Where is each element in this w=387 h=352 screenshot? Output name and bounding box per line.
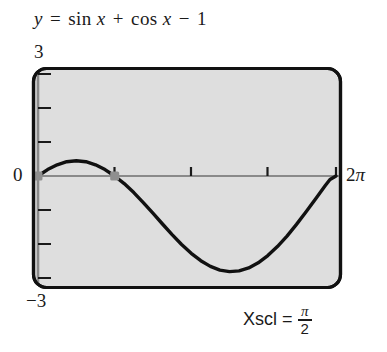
- xscl-numerator: π: [298, 304, 312, 319]
- x-axis-max-label: 2π: [346, 164, 365, 186]
- xscl-annotation: Xscl = π 2: [243, 304, 312, 336]
- equation-sin-argument: x: [97, 8, 106, 29]
- equation-cos-function: cos: [131, 8, 158, 29]
- equation-plus-operator: +: [111, 8, 126, 29]
- equation-lhs: y: [34, 8, 43, 29]
- equation-sin-function: sin: [68, 8, 91, 29]
- y-axis-max-label: 3: [34, 41, 44, 63]
- origin-label: 0: [13, 164, 23, 186]
- y-axis-min-label: −3: [26, 290, 46, 312]
- xscl-label: Xscl: [243, 309, 277, 330]
- pi-symbol-icon: π: [356, 164, 366, 185]
- x-axis-max-coefficient: 2: [346, 164, 356, 185]
- equation-title: y = sin x + cos x − 1: [34, 8, 207, 30]
- graphing-calculator-figure: y = sin x + cos x − 1 3 −3 0 2π: [0, 0, 387, 352]
- equation-cos-argument: x: [163, 8, 172, 29]
- xscl-equals: =: [282, 309, 293, 330]
- zero-crossing-marker: [110, 172, 119, 181]
- calculator-screen-plot: [31, 66, 343, 290]
- screen-background: [34, 69, 341, 288]
- equation-minus-operator: −: [177, 8, 192, 29]
- equation-constant: 1: [197, 8, 207, 29]
- xscl-denominator: 2: [298, 321, 312, 336]
- xscl-fraction: π 2: [298, 304, 312, 336]
- equation-equals: =: [48, 8, 63, 29]
